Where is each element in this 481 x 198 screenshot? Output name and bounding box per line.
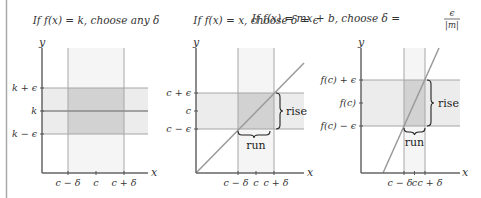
fraction-denominator: |m| bbox=[445, 20, 459, 31]
rise-label: rise bbox=[286, 105, 307, 118]
x-tick-left: c − δ bbox=[223, 177, 248, 188]
x-tick-center: c bbox=[253, 177, 259, 188]
y-tick-upper: c + ϵ bbox=[166, 87, 191, 98]
rise-label: rise bbox=[438, 97, 459, 110]
x-tick-left: c − δ bbox=[55, 177, 80, 188]
panel-1-title: If f(x) = k, choose any δ bbox=[32, 14, 160, 26]
x-axis-label: x bbox=[462, 166, 469, 179]
y-tick-mid: c bbox=[186, 105, 192, 116]
y-tick-lower: c − ϵ bbox=[166, 123, 191, 134]
y-tick-lower: k − ϵ bbox=[12, 128, 38, 139]
run-label: run bbox=[405, 136, 424, 149]
y-tick-mid: k bbox=[31, 105, 37, 116]
panel-identity: If f(x) = x, choose δ = ϵ rise run y x c… bbox=[166, 14, 318, 188]
y-axis-label: y bbox=[192, 36, 200, 49]
panel-constant: If f(x) = k, choose any δ y x k + ϵ k k … bbox=[12, 14, 159, 188]
x-axis-label: x bbox=[307, 166, 314, 179]
x-tick-right: c + δ bbox=[263, 177, 288, 188]
y-tick-mid: f(c) bbox=[339, 97, 357, 108]
x-tick-left: c − δ bbox=[387, 177, 412, 188]
y-axis-label: y bbox=[38, 36, 46, 49]
y-tick-upper: f(c) + ϵ bbox=[319, 74, 356, 85]
fraction-numerator: ϵ bbox=[449, 8, 454, 18]
x-tick-right: c + δ bbox=[417, 177, 442, 188]
y-tick-lower: f(c) − ϵ bbox=[319, 120, 356, 131]
y-axis-label: y bbox=[357, 36, 365, 49]
run-label: run bbox=[246, 139, 265, 152]
panel-3-title: If f(x) = mx + b, choose δ = bbox=[251, 12, 400, 24]
x-tick-center: c bbox=[93, 177, 99, 188]
x-tick-right: c + δ bbox=[111, 177, 136, 188]
y-tick-upper: k + ϵ bbox=[12, 82, 38, 93]
x-axis-label: x bbox=[151, 166, 158, 179]
epsilon-delta-figure: If f(x) = k, choose any δ y x k + ϵ k k … bbox=[0, 0, 481, 198]
